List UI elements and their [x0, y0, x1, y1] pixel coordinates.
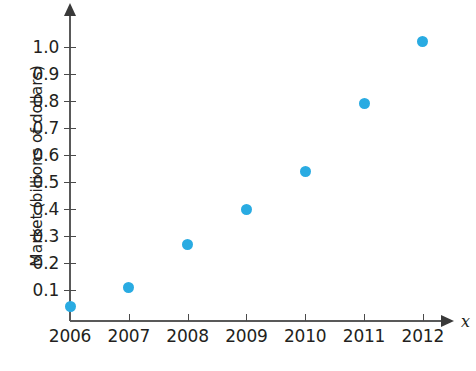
data-point [417, 36, 428, 47]
y-axis-tick [64, 182, 76, 183]
data-point [182, 239, 193, 250]
x-axis-tick-label: 2010 [275, 326, 335, 346]
y-axis-tick [64, 236, 76, 237]
x-axis-tick [246, 314, 247, 321]
y-axis-title: Market (billions of dollars) [28, 41, 46, 291]
y-axis-tick [64, 155, 76, 156]
x-axis-tick [129, 314, 130, 321]
x-axis-tick-label: 2007 [99, 326, 159, 346]
data-point [359, 98, 370, 109]
x-axis-line [70, 320, 443, 322]
data-point [300, 166, 311, 177]
y-axis-tick [64, 74, 76, 75]
y-axis-tick [64, 209, 76, 210]
x-axis-tick-label: 2012 [393, 326, 453, 346]
y-axis-tick [64, 101, 76, 102]
y-axis-tick [64, 263, 76, 264]
x-axis-tick [188, 314, 189, 321]
data-point [241, 204, 252, 215]
data-point [65, 301, 76, 312]
y-axis-tick [64, 290, 76, 291]
y-axis-tick [64, 47, 76, 48]
data-point [123, 282, 134, 293]
x-axis-tick-label: 2006 [40, 326, 100, 346]
x-axis-tick [423, 314, 424, 321]
x-axis-tick-label: 2011 [334, 326, 394, 346]
x-axis-tick-label: 2009 [216, 326, 276, 346]
y-axis-tick [64, 128, 76, 129]
scatter-chart-figure: 0.10.20.30.40.50.60.70.80.91.0 200620072… [0, 0, 476, 371]
x-axis-tick [305, 314, 306, 321]
x-axis-title: x [461, 312, 470, 331]
y-axis-line [69, 14, 71, 321]
x-axis-tick [364, 314, 365, 321]
y-axis-arrow-icon [64, 3, 76, 16]
x-axis-tick-label: 2008 [158, 326, 218, 346]
